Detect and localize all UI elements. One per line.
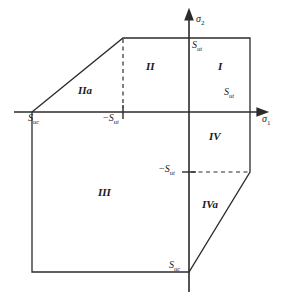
- sigma1-axis-label: σ1: [262, 114, 270, 127]
- sigma2-subscript: 2: [201, 19, 205, 27]
- region-label-IVa: IVa: [202, 199, 218, 210]
- sigma1-subscript: 1: [267, 119, 271, 127]
- marker-subscript: uc: [33, 118, 39, 125]
- region-label-IIa: IIa: [78, 85, 92, 96]
- region-label-IV: IV: [209, 131, 221, 142]
- marker-subscript: ut: [229, 92, 234, 99]
- marker-subscript: ut: [197, 45, 202, 52]
- marker-sut-sigma2: Sut: [192, 40, 202, 53]
- sigma2-axis-label: σ2: [196, 14, 204, 27]
- failure-envelope-polygon: [32, 38, 250, 272]
- region-label-II: II: [146, 61, 155, 72]
- marker-subscript: uc: [174, 265, 180, 272]
- failure-envelope-diagram: σ2 σ1 I II IIa III IV IVa Sut Sut Suc −S…: [0, 0, 283, 302]
- marker-subscript: ut: [114, 118, 119, 125]
- marker-suc-sigma2: Suc: [169, 260, 180, 273]
- marker-sut-sigma1: Sut: [224, 87, 234, 100]
- region-label-I: I: [218, 61, 222, 72]
- diagram-canvas: [0, 0, 283, 302]
- region-label-III: III: [98, 187, 111, 198]
- marker-neg-sut-sigma2: −Sut: [159, 164, 175, 177]
- marker-suc-sigma1: Suc: [28, 113, 39, 126]
- marker-neg-sut-sigma1: −Sut: [103, 113, 119, 126]
- marker-subscript: ut: [170, 169, 175, 176]
